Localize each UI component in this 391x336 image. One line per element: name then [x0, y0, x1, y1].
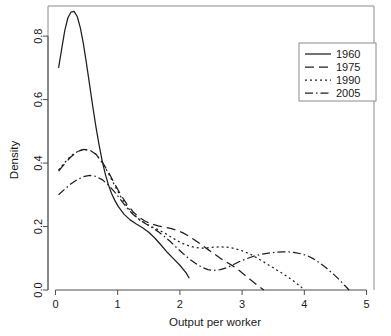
x-tick-label-4: 4: [301, 298, 307, 310]
legend-label-1960: 1960: [336, 48, 360, 60]
chart-canvas: 0.00.20.40.60.8 012345 Density Output pe…: [0, 0, 391, 336]
x-tick-label-1: 1: [115, 298, 121, 310]
chart-legend: 1960197519902005: [299, 43, 376, 101]
legend-label-1975: 1975: [336, 61, 360, 73]
y-tick-label-0: 0.0: [32, 282, 44, 297]
density-plot-figure: 0.00.20.40.60.8 012345 Density Output pe…: [0, 0, 391, 336]
x-axis-title: Output per worker: [169, 316, 261, 328]
y-tick-label-4: 0.8: [32, 28, 44, 43]
x-tick-label-2: 2: [177, 298, 183, 310]
legend-label-1990: 1990: [336, 74, 360, 86]
x-tick-label-0: 0: [52, 298, 58, 310]
y-tick-label-2: 0.4: [32, 155, 44, 170]
x-tick-label-5: 5: [363, 298, 369, 310]
y-axis-title: Density: [8, 141, 20, 180]
legend-label-2005: 2005: [336, 87, 360, 99]
y-tick-label-1: 0.2: [32, 219, 44, 234]
y-tick-label-3: 0.6: [32, 92, 44, 107]
x-tick-label-3: 3: [239, 298, 245, 310]
